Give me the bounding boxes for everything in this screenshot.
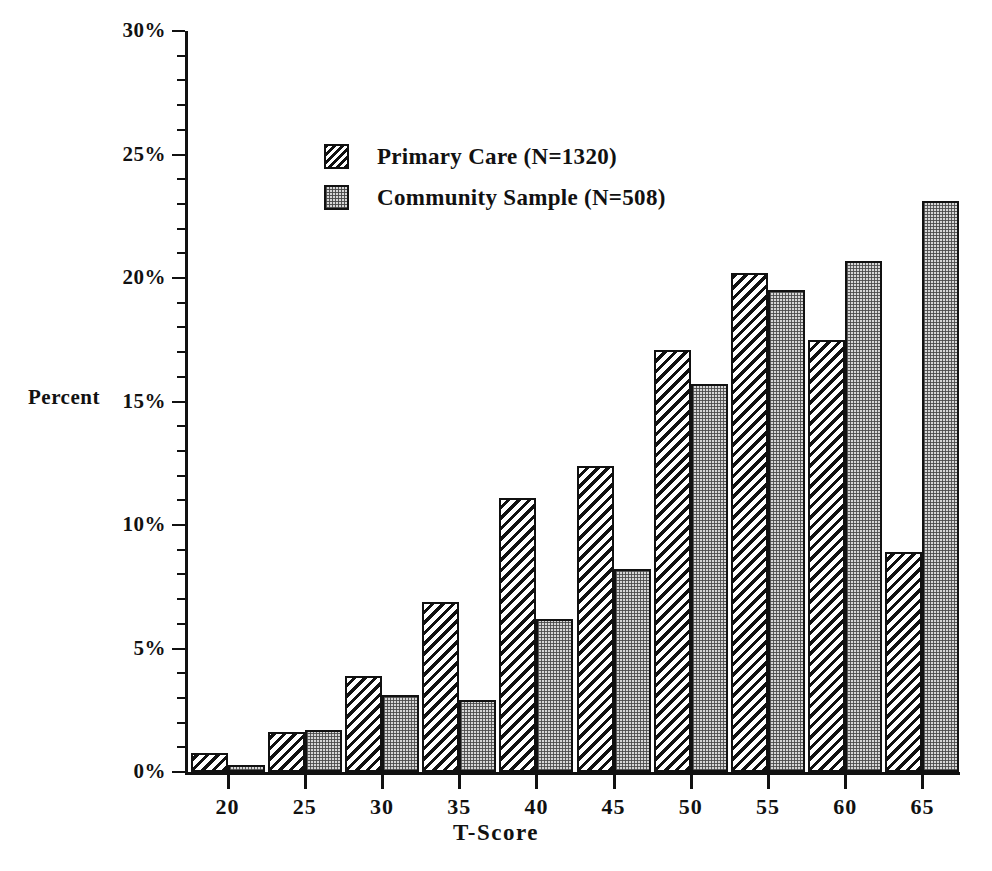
legend-swatch-hatch-icon <box>324 144 349 169</box>
y-tick-minor <box>177 499 185 501</box>
y-tick-label: 5% <box>134 636 167 661</box>
bar <box>536 619 573 772</box>
x-tick-label: 30 <box>370 794 394 820</box>
y-tick-minor <box>177 79 185 81</box>
x-tick-label: 55 <box>756 794 780 820</box>
bar <box>577 466 614 772</box>
bar <box>228 765 265 772</box>
legend-swatch-dots-icon <box>324 185 349 210</box>
y-tick-label: 10% <box>123 512 167 537</box>
x-tick-label: 45 <box>602 794 626 820</box>
x-tick-label: 40 <box>524 794 548 820</box>
bar <box>345 676 382 772</box>
x-tick <box>613 774 616 789</box>
x-tick <box>844 774 847 789</box>
x-tick-label: 35 <box>447 794 471 820</box>
legend-item-community-sample: Community Sample (N=508) <box>324 177 666 218</box>
x-tick-label: 25 <box>293 794 317 820</box>
bar <box>305 730 342 772</box>
y-tick-minor <box>177 598 185 600</box>
y-tick-minor <box>177 129 185 131</box>
x-tick <box>227 774 230 789</box>
y-tick-major <box>172 30 185 32</box>
legend-item-primary-care: Primary Care (N=1320) <box>324 136 666 177</box>
x-tick <box>921 774 924 789</box>
y-axis-title: Percent <box>28 385 100 410</box>
y-tick-major <box>172 401 185 403</box>
bar <box>499 498 536 772</box>
bar <box>382 695 419 772</box>
bar <box>731 273 768 772</box>
y-tick-minor <box>177 746 185 748</box>
y-tick-label: 15% <box>123 389 167 414</box>
y-tick-minor <box>177 623 185 625</box>
y-tick-minor <box>177 228 185 230</box>
y-tick-major <box>172 277 185 279</box>
y-tick-label: 30% <box>123 18 167 43</box>
legend-label-community-sample: Community Sample (N=508) <box>377 185 666 211</box>
x-tick-label: 50 <box>679 794 703 820</box>
bar <box>922 201 959 772</box>
y-tick-minor <box>177 425 185 427</box>
y-tick-minor <box>177 55 185 57</box>
y-tick-major <box>172 524 185 526</box>
x-tick-label: 60 <box>833 794 857 820</box>
y-tick-minor <box>177 697 185 699</box>
y-tick-minor <box>177 302 185 304</box>
bar <box>768 290 805 772</box>
x-tick <box>690 774 693 789</box>
chart-legend: Primary Care (N=1320) Community Sample (… <box>324 136 666 218</box>
legend-label-primary-care: Primary Care (N=1320) <box>377 144 617 170</box>
chart-page: Percent 0%5%10%15%20%25%30% 202530354045… <box>0 0 992 871</box>
x-tick <box>381 774 384 789</box>
y-tick-minor <box>177 178 185 180</box>
bar <box>191 753 228 772</box>
x-tick-label: 65 <box>910 794 934 820</box>
y-tick-label: 20% <box>123 265 167 290</box>
bar <box>845 261 882 772</box>
bar <box>808 340 845 772</box>
y-tick-major <box>172 771 185 773</box>
x-tick <box>767 774 770 789</box>
y-tick-minor <box>177 351 185 353</box>
y-tick-minor <box>177 672 185 674</box>
y-tick-minor <box>177 450 185 452</box>
bar <box>654 350 691 772</box>
x-tick <box>304 774 307 789</box>
bar <box>691 384 728 772</box>
y-tick-major <box>172 154 185 156</box>
bar <box>459 700 496 772</box>
y-tick-minor <box>177 549 185 551</box>
y-tick-minor <box>177 326 185 328</box>
y-tick-label: 25% <box>123 142 167 167</box>
y-tick-minor <box>177 104 185 106</box>
bar <box>614 569 651 772</box>
bar <box>885 552 922 772</box>
y-tick-minor <box>177 252 185 254</box>
y-tick-minor <box>177 722 185 724</box>
x-tick <box>458 774 461 789</box>
x-tick <box>535 774 538 789</box>
bar <box>422 602 459 772</box>
y-tick-major <box>172 648 185 650</box>
y-tick-minor <box>177 376 185 378</box>
bar <box>268 732 305 772</box>
x-tick-label: 20 <box>216 794 240 820</box>
y-tick-minor <box>177 475 185 477</box>
y-tick-minor <box>177 203 185 205</box>
x-axis-title: T-Score <box>0 820 992 846</box>
y-tick-label: 0% <box>134 759 167 784</box>
y-axis-line <box>185 31 188 772</box>
y-tick-minor <box>177 573 185 575</box>
